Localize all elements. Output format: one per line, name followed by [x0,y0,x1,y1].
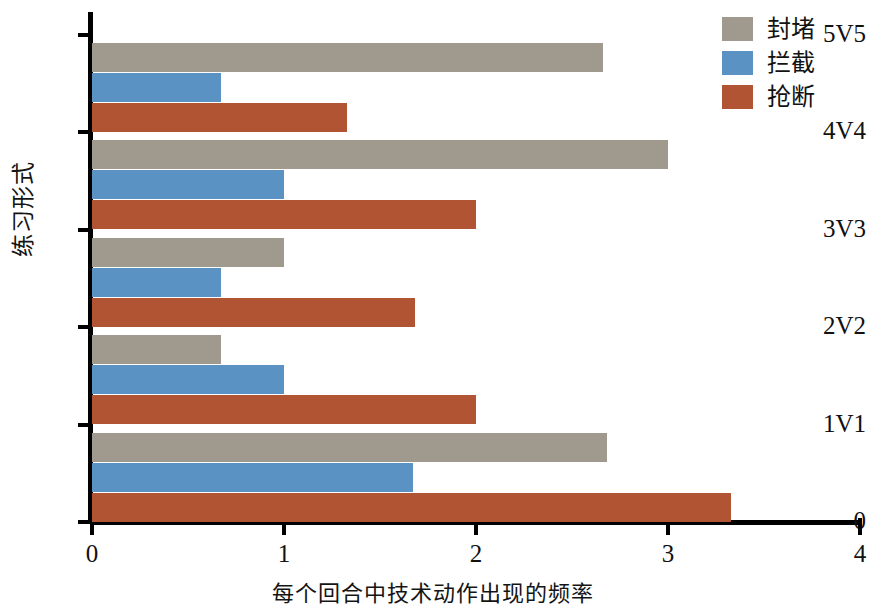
y-axis-tick [78,33,93,37]
y-axis-tick-label: 2V2 [792,313,866,338]
bar-5V5-抢断 [92,103,347,132]
y-axis-tick [78,130,93,134]
x-axis-tick-label: 0 [62,540,122,568]
y-axis-tick [78,423,93,427]
bar-2V2-封堵 [92,335,221,364]
y-axis-title: 练习形式 [4,144,38,274]
bar-3V3-封堵 [92,238,284,267]
x-axis-tick-label: 3 [638,540,698,568]
x-axis-tick-label: 1 [254,540,314,568]
x-axis-tick-label: 2 [446,540,506,568]
legend-label: 抢断 [767,85,815,109]
legend-item: 拦截 [722,46,862,80]
bar-1V1-拦截 [92,463,413,492]
bar-3V3-抢断 [92,298,415,327]
bar-4V4-封堵 [92,140,668,169]
bar-5V5-拦截 [92,73,221,102]
x-axis-tick [858,518,862,535]
x-axis-tick-label: 4 [830,540,871,568]
legend-item: 抢断 [722,80,862,114]
bar-1V1-抢断 [92,493,731,522]
y-axis-tick [78,228,93,232]
legend-swatch-icon [722,85,753,109]
bar-5V5-封堵 [92,43,603,72]
bar-4V4-抢断 [92,200,476,229]
y-axis-tick-label: 1V1 [792,411,866,436]
chart-legend: 封堵拦截抢断 [722,12,862,114]
bar-1V1-封堵 [92,433,607,462]
y-axis-tick-label: 0 [792,508,866,533]
legend-swatch-icon [722,17,753,41]
y-axis-tick-label: 3V3 [792,216,866,241]
bar-3V3-拦截 [92,268,221,297]
y-axis-tick [78,325,93,329]
legend-label: 封堵 [767,17,815,41]
bar-2V2-拦截 [92,365,284,394]
x-axis-title: 每个回合中技术动作出现的频率 [0,575,866,607]
bar-2V2-抢断 [92,395,476,424]
bar-4V4-拦截 [92,170,284,199]
legend-label: 拦截 [767,51,815,75]
legend-swatch-icon [722,51,753,75]
legend-item: 封堵 [722,12,862,46]
y-axis-tick-label: 4V4 [792,118,866,143]
